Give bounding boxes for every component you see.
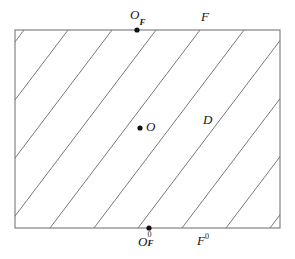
label-F-0-base: F bbox=[197, 233, 205, 248]
foliation-line bbox=[0, 30, 112, 228]
label-F-text: F bbox=[201, 9, 209, 24]
label-O: O bbox=[146, 120, 155, 133]
foliation-line bbox=[0, 30, 68, 228]
label-O-F-subscript: F bbox=[139, 17, 145, 27]
label-F-0: F0 bbox=[197, 234, 209, 247]
label-O-F-0-base: O bbox=[138, 234, 147, 249]
label-O-F-base: O bbox=[130, 7, 139, 22]
label-O-F: OF bbox=[130, 8, 145, 25]
foliation-line bbox=[226, 30, 295, 228]
label-D: D bbox=[203, 113, 212, 126]
foliation-line bbox=[182, 30, 295, 228]
label-O-F-0-scripts: 0F bbox=[147, 233, 156, 246]
foliation-line bbox=[6, 30, 156, 228]
foliation-line bbox=[270, 30, 295, 228]
point-O-F bbox=[134, 27, 139, 32]
figure-canvas: OF F O D O0F F0 bbox=[0, 0, 295, 259]
point-O bbox=[137, 125, 142, 130]
foliation-line bbox=[50, 30, 200, 228]
label-O-F-0-subscript: F bbox=[147, 239, 153, 248]
label-O-F-0: O0F bbox=[138, 233, 156, 248]
label-O-text: O bbox=[146, 119, 155, 134]
foliation-line bbox=[138, 30, 288, 228]
foliation-line bbox=[94, 30, 244, 228]
foliation-line bbox=[0, 30, 24, 228]
label-D-text: D bbox=[203, 112, 212, 127]
label-F: F bbox=[201, 10, 209, 23]
label-F-0-superscript: 0 bbox=[205, 232, 209, 241]
